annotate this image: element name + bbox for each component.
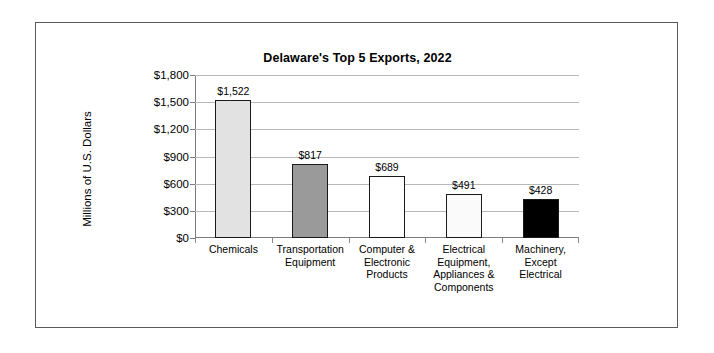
bar-value-label: $491 xyxy=(452,179,475,191)
y-axis-tick-labels: $0$300$600$900$1,200$1,500$1,800 xyxy=(123,75,189,238)
category-label-line: Electrical xyxy=(422,243,506,256)
y-tick-label: $1,500 xyxy=(127,96,189,108)
y-axis-title: Millions of U.S. Dollars xyxy=(81,89,93,249)
y-tick-mark xyxy=(190,75,195,76)
x-axis-category-labels: ChemicalsTransportationEquipmentComputer… xyxy=(195,243,579,323)
category-label: ElectricalEquipment,Appliances &Componen… xyxy=(422,243,506,293)
y-tick-label: $0 xyxy=(127,232,189,244)
category-label-line: Components xyxy=(422,281,506,294)
y-tick-mark xyxy=(190,129,195,130)
bar-value-label: $689 xyxy=(375,161,398,173)
category-label-line: Appliances & xyxy=(422,268,506,281)
bar xyxy=(292,164,328,238)
y-tick-label: $300 xyxy=(127,205,189,217)
bar xyxy=(446,194,482,238)
y-tick-mark xyxy=(190,102,195,103)
gridline xyxy=(195,102,579,103)
bar-value-label: $428 xyxy=(529,184,552,196)
y-tick-mark xyxy=(190,184,195,185)
y-tick-label: $1,800 xyxy=(127,69,189,81)
category-label-line: Equipment, xyxy=(422,256,506,269)
category-label-line: Machinery, xyxy=(499,243,583,256)
y-tick-mark xyxy=(190,211,195,212)
category-label-line: Electrical xyxy=(499,268,583,281)
category-label-line: Computer & xyxy=(345,243,429,256)
y-tick-label: $900 xyxy=(127,151,189,163)
bar xyxy=(215,100,251,238)
y-tick-label: $1,200 xyxy=(127,123,189,135)
category-label: Computer &ElectronicProducts xyxy=(345,243,429,281)
bar-value-label: $817 xyxy=(299,149,322,161)
chart-title: Delaware's Top 5 Exports, 2022 xyxy=(36,51,679,65)
y-tick-mark xyxy=(190,157,195,158)
bar xyxy=(369,176,405,238)
category-label: Chemicals xyxy=(191,243,275,256)
bar-value-label: $1,522 xyxy=(217,85,249,97)
gridline xyxy=(195,129,579,130)
category-label-line: Except xyxy=(499,256,583,269)
gridline xyxy=(195,157,579,158)
gridline xyxy=(195,75,579,76)
category-label-line: Products xyxy=(345,268,429,281)
category-label-line: Electronic xyxy=(345,256,429,269)
chart-figure-frame: Delaware's Top 5 Exports, 2022 Millions … xyxy=(35,22,678,328)
y-tick-label: $600 xyxy=(127,178,189,190)
bar xyxy=(523,199,559,238)
plot-area: $1,522$817$689$491$428 xyxy=(195,75,579,238)
category-label: Machinery,ExceptElectrical xyxy=(499,243,583,281)
category-label-line: Transportation xyxy=(268,243,352,256)
category-label-line: Equipment xyxy=(268,256,352,269)
category-label: TransportationEquipment xyxy=(268,243,352,268)
category-label-line: Chemicals xyxy=(191,243,275,256)
